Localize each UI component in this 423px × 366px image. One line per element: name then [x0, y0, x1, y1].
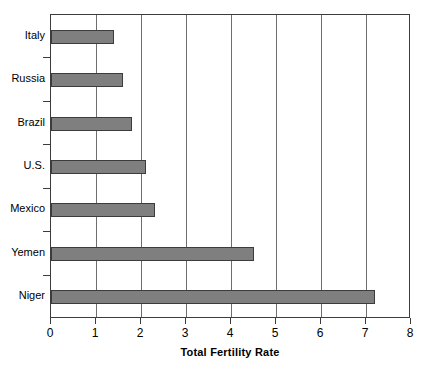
y-axis-category-label: Russia — [0, 73, 45, 84]
x-axis-tick-label: 8 — [395, 327, 423, 339]
y-axis-labels: ItalyRussiaBrazilU.S.MexicoYemenNiger — [0, 0, 45, 366]
gridline — [321, 15, 322, 317]
x-axis-tick-label: 0 — [35, 327, 65, 339]
x-axis-title: Total Fertility Rate — [50, 346, 410, 358]
y-axis-category-label: Italy — [0, 30, 45, 41]
gridline — [231, 15, 232, 317]
y-axis-category-label: Yemen — [0, 247, 45, 258]
x-axis-tick — [320, 318, 321, 324]
bar — [51, 203, 155, 217]
bar — [51, 290, 375, 304]
y-axis-category-label: Mexico — [0, 203, 45, 214]
bar-chart-figure: ItalyRussiaBrazilU.S.MexicoYemenNiger 01… — [0, 0, 423, 366]
x-axis-tick-label: 7 — [350, 327, 380, 339]
gridline — [276, 15, 277, 317]
x-axis-tick — [410, 318, 411, 324]
gridline — [186, 15, 187, 317]
x-axis-tick-label: 3 — [170, 327, 200, 339]
x-axis-tick — [140, 318, 141, 324]
bar — [51, 30, 114, 44]
x-axis-tick-label: 1 — [80, 327, 110, 339]
bar — [51, 73, 123, 87]
y-axis-category-label: Niger — [0, 290, 45, 301]
x-axis-tick — [365, 318, 366, 324]
bar — [51, 247, 254, 261]
y-axis-tick — [43, 231, 50, 232]
x-axis-tick — [230, 318, 231, 324]
bar — [51, 117, 132, 131]
x-axis-tick — [275, 318, 276, 324]
x-axis-tick-label: 5 — [260, 327, 290, 339]
y-axis-category-label: Brazil — [0, 117, 45, 128]
x-axis-tick-label: 4 — [215, 327, 245, 339]
gridline — [366, 15, 367, 317]
y-axis-tick — [43, 101, 50, 102]
y-axis-tick — [43, 57, 50, 58]
x-axis-tick — [185, 318, 186, 324]
y-axis-tick — [43, 144, 50, 145]
bar — [51, 160, 146, 174]
plot-area — [50, 14, 410, 318]
y-axis-tick — [43, 275, 50, 276]
y-axis-tick — [43, 188, 50, 189]
x-axis-tick — [95, 318, 96, 324]
x-axis-tick — [50, 318, 51, 324]
x-axis-tick-label: 2 — [125, 327, 155, 339]
x-axis-tick-label: 6 — [305, 327, 335, 339]
y-axis-category-label: U.S. — [0, 160, 45, 171]
